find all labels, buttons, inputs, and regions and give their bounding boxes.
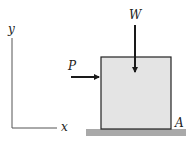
force-p: P bbox=[67, 59, 99, 77]
coordinate-axes: y x bbox=[7, 22, 68, 134]
ground-surface bbox=[86, 129, 186, 136]
point-a-label: A bbox=[174, 116, 184, 130]
free-body-diagram: y x P W A bbox=[0, 0, 194, 145]
force-w-label: W bbox=[129, 8, 143, 22]
y-axis-label: y bbox=[7, 22, 15, 36]
diagram-canvas: y x P W A bbox=[0, 0, 194, 145]
force-p-label: P bbox=[67, 59, 77, 73]
x-axis-label: x bbox=[61, 120, 68, 134]
